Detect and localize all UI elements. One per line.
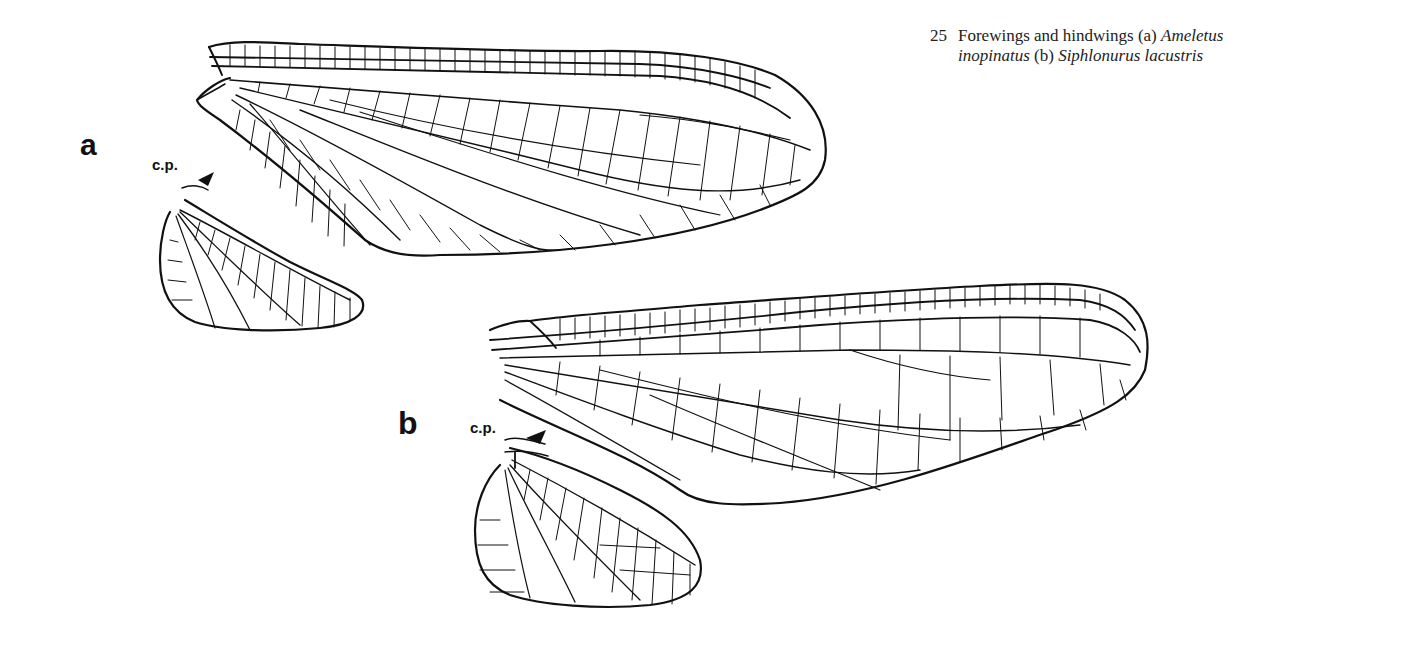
- cp-arrow-b: [526, 430, 546, 444]
- cp-annotation-a: c.p.: [152, 156, 178, 173]
- species-a: inopinatus: [958, 46, 1030, 65]
- figure: a c.p. b c.p. 25Forewings and hindwings …: [0, 0, 1427, 650]
- genus-a: Ameletus: [1161, 26, 1223, 45]
- species-b: Siphlonurus lacustris: [1058, 46, 1203, 65]
- figure-caption: 25Forewings and hindwings (a) Ameletus i…: [930, 26, 1350, 66]
- caption-line-1: 25Forewings and hindwings (a) Ameletus: [930, 26, 1350, 46]
- hindwing-a: [160, 172, 363, 330]
- crossveins-a: [230, 45, 795, 252]
- wing-illustrations: [0, 0, 1427, 650]
- crossveins-hb: [478, 470, 690, 604]
- cp-arrow-a: [198, 172, 214, 186]
- crossveins-ha: [168, 222, 350, 328]
- panel-label-a: a: [80, 128, 97, 162]
- forewing-b: [490, 284, 1148, 505]
- caption-line-2: inopinatus (b) Siphlonurus lacustris: [930, 46, 1350, 66]
- cp-annotation-b: c.p.: [470, 419, 496, 436]
- forewing-a: [197, 42, 826, 256]
- figure-number: 25: [930, 26, 958, 46]
- hindwing-b: [475, 430, 701, 607]
- crossveins-b: [556, 285, 1126, 484]
- panel-label-b: b: [398, 405, 418, 442]
- caption-text: Forewings and hindwings (a): [958, 26, 1161, 45]
- caption-mid: (b): [1030, 46, 1058, 65]
